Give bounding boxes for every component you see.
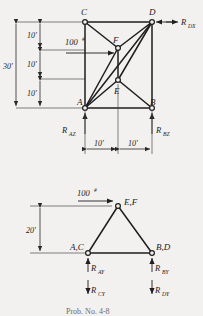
reaction-RBY: R BY bbox=[152, 258, 169, 275]
member-F-A bbox=[85, 48, 118, 108]
joint-label-F: F bbox=[112, 35, 119, 45]
reaction-RCY: R CY bbox=[88, 280, 106, 297]
reaction-RBZ-base: R bbox=[155, 125, 162, 135]
reaction-RDY-sub: DY bbox=[161, 291, 170, 297]
joint-label-C: C bbox=[81, 7, 88, 17]
segment-height-label-1: 10' bbox=[27, 31, 37, 40]
reaction-RBZ: R BZ bbox=[152, 113, 170, 137]
reaction-RDY: R DY bbox=[152, 280, 170, 297]
segment-height-label-3: 10' bbox=[27, 89, 37, 98]
applied-load-magnitude: 100 bbox=[65, 37, 79, 47]
lower-truss-members bbox=[88, 206, 152, 253]
member-EF-AC bbox=[88, 206, 118, 253]
joint-AC bbox=[86, 251, 91, 256]
member-E-B bbox=[118, 80, 152, 108]
reaction-RAY-base: R bbox=[90, 263, 97, 273]
joint-label-A: A bbox=[76, 97, 83, 107]
joint-BD bbox=[150, 251, 155, 256]
figure-canvas: 30' 10' 10' 10' bbox=[0, 0, 203, 316]
joint-label-AC: A,C bbox=[69, 242, 85, 252]
reaction-RDX: R DX bbox=[156, 17, 196, 29]
joint-E bbox=[116, 78, 121, 83]
joint-label-EF: E,F bbox=[123, 197, 138, 207]
joint-label-E: E bbox=[113, 86, 120, 96]
reaction-RBY-base: R bbox=[154, 263, 161, 273]
reaction-RAZ: R AZ bbox=[61, 113, 85, 137]
lower-height-dimension: 20' bbox=[26, 208, 40, 251]
lower-height-label: 20' bbox=[26, 226, 36, 235]
engineering-diagram: 30' 10' 10' 10' bbox=[0, 0, 203, 316]
joint-D bbox=[150, 20, 155, 25]
lower-truss-joints bbox=[86, 204, 155, 256]
joint-EF bbox=[116, 204, 121, 209]
joint-C bbox=[83, 20, 88, 25]
joint-A bbox=[83, 106, 88, 111]
reaction-RDY-base: R bbox=[154, 285, 161, 295]
reaction-RBY-sub: BY bbox=[162, 269, 169, 275]
segment-height-dimensions: 10' 10' 10' bbox=[27, 24, 40, 106]
joint-label-BD: B,D bbox=[156, 242, 171, 252]
joint-label-B: B bbox=[150, 97, 156, 107]
width-label-left: 10' bbox=[94, 139, 104, 148]
width-label-right: 10' bbox=[128, 139, 138, 148]
lower-applied-load: 100 # bbox=[77, 187, 113, 201]
reaction-RAZ-base: R bbox=[61, 125, 68, 135]
joint-F bbox=[116, 46, 121, 51]
member-D-E bbox=[118, 22, 152, 80]
lower-load-unit: # bbox=[94, 187, 97, 193]
reaction-RCY-base: R bbox=[90, 285, 97, 295]
reaction-RDX-base: R bbox=[180, 17, 187, 27]
segment-height-label-2: 10' bbox=[27, 60, 37, 69]
reaction-RDX-sub: DX bbox=[187, 23, 196, 29]
reaction-RBZ-sub: BZ bbox=[163, 131, 170, 137]
applied-load-unit: # bbox=[82, 36, 85, 42]
joint-label-D: D bbox=[148, 7, 156, 17]
reaction-RAY-sub: AY bbox=[97, 269, 105, 275]
overall-height-label: 30' bbox=[2, 62, 13, 71]
reaction-RAY: R AY bbox=[88, 258, 105, 275]
overall-height-dimension: 30' bbox=[2, 24, 16, 106]
reaction-RCY-sub: CY bbox=[98, 291, 106, 297]
member-EF-BD bbox=[118, 206, 152, 253]
figure-caption: Prob. No. 4-8 bbox=[66, 307, 110, 316]
lower-load-magnitude: 100 bbox=[77, 188, 91, 198]
reaction-RAZ-sub: AZ bbox=[68, 131, 76, 137]
